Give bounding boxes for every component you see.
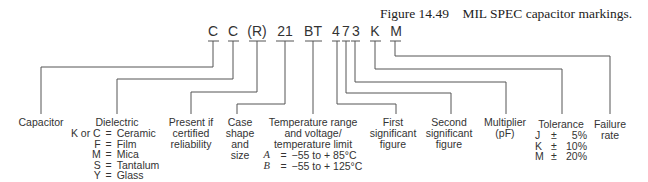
equals-sign: = <box>101 149 117 160</box>
tolerance-row: J±5% <box>535 130 587 141</box>
equals-sign: = <box>276 161 292 172</box>
temperature-code: B <box>264 161 276 172</box>
label-multiplier: Multiplier (pF) <box>484 117 526 139</box>
dielectric-row: M=Mica <box>65 149 160 160</box>
label-second-figure: Second significant figure <box>426 117 473 150</box>
label-line: size <box>226 150 255 161</box>
label-dielectric: Dielectric K or C=Ceramic F=Film M=Mica … <box>75 117 160 181</box>
label-first-figure: First significant figure <box>370 117 417 150</box>
plus-minus-sign: ± <box>547 151 561 162</box>
equals-sign: = <box>276 150 292 161</box>
label-temperature: Temperature range and voltage/ temperatu… <box>264 117 363 171</box>
code-second-figure: 7 <box>342 23 350 39</box>
label-line: figure <box>426 139 473 150</box>
label-line: rate <box>594 130 626 141</box>
dielectric-row: Y=Glass <box>65 170 160 181</box>
temperature-table: A=−55 to + 85°C B=−55 to + 125°C <box>264 150 363 171</box>
dielectric-code: M <box>65 149 101 160</box>
dielectric-value: Mica <box>117 149 139 160</box>
dielectric-code: K or C <box>65 128 101 139</box>
code-case: 21 <box>277 23 293 39</box>
equals-sign: = <box>101 128 117 139</box>
label-line: reliability <box>169 139 213 150</box>
equals-sign: = <box>101 170 117 181</box>
dielectric-value: Ceramic <box>117 128 156 139</box>
code-reliability: (R) <box>247 23 266 39</box>
label-capacitor: Capacitor <box>19 117 64 128</box>
temperature-code: A <box>264 150 276 161</box>
tolerance-row: M±20% <box>535 151 587 162</box>
temperature-value: −55 to + 125°C <box>292 161 363 172</box>
label-case: Case shape and size <box>226 117 255 161</box>
code-tolerance: K <box>370 23 379 39</box>
code-temperature: BT <box>304 23 322 39</box>
temperature-row: A=−55 to + 85°C <box>264 150 363 161</box>
plus-minus-sign: ± <box>547 130 561 141</box>
label-line: (pF) <box>484 128 526 139</box>
tolerance-code: M <box>535 151 547 162</box>
dielectric-table: K or C=Ceramic F=Film M=Mica S=Tantalum … <box>65 128 160 181</box>
dielectric-row: F=Film <box>65 139 160 150</box>
dielectric-code: Y <box>65 170 101 181</box>
temperature-value: −55 to + 85°C <box>292 150 357 161</box>
label-line: figure <box>370 139 417 150</box>
tolerance-code: J <box>535 130 547 141</box>
dielectric-value: Glass <box>117 170 144 181</box>
code-dielectric: C <box>228 23 238 39</box>
label-tolerance: Tolerance J±5% K±10% M±20% <box>535 119 587 162</box>
dielectric-row: S=Tantalum <box>65 160 160 171</box>
tolerance-value: 20% <box>561 151 587 162</box>
code-failure-rate: M <box>390 23 402 39</box>
code-capacitor: C <box>208 23 218 39</box>
label-line: Capacitor <box>19 117 64 128</box>
label-failure-rate: Failure rate <box>594 119 626 141</box>
tolerance-table: J±5% K±10% M±20% <box>535 130 587 162</box>
code-first-figure: 4 <box>332 23 340 39</box>
tolerance-value: 5% <box>561 130 587 141</box>
label-reliability: Present if certified reliability <box>169 117 213 150</box>
dielectric-row: K or C=Ceramic <box>65 128 160 139</box>
temperature-row: B=−55 to + 125°C <box>264 161 363 172</box>
code-multiplier: 3 <box>352 23 360 39</box>
